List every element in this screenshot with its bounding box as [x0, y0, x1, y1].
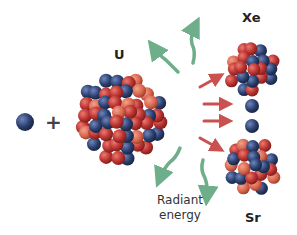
incoming-neutron	[16, 113, 34, 131]
radiant-line-2: energy	[150, 208, 210, 223]
released-neutrons	[245, 99, 259, 133]
xenon-nucleus	[225, 42, 280, 96]
product-arrows	[200, 77, 226, 148]
label-radiant-energy: Radiant energy	[150, 193, 210, 223]
label-xenon: Xe	[242, 10, 261, 25]
strontium-nucleus	[225, 139, 281, 195]
radiant-line-1: Radiant	[150, 193, 210, 208]
uranium-nucleus	[76, 74, 167, 166]
plus-sign: +	[45, 110, 62, 134]
label-uranium: U	[114, 47, 125, 62]
label-strontium: Sr	[245, 210, 261, 225]
